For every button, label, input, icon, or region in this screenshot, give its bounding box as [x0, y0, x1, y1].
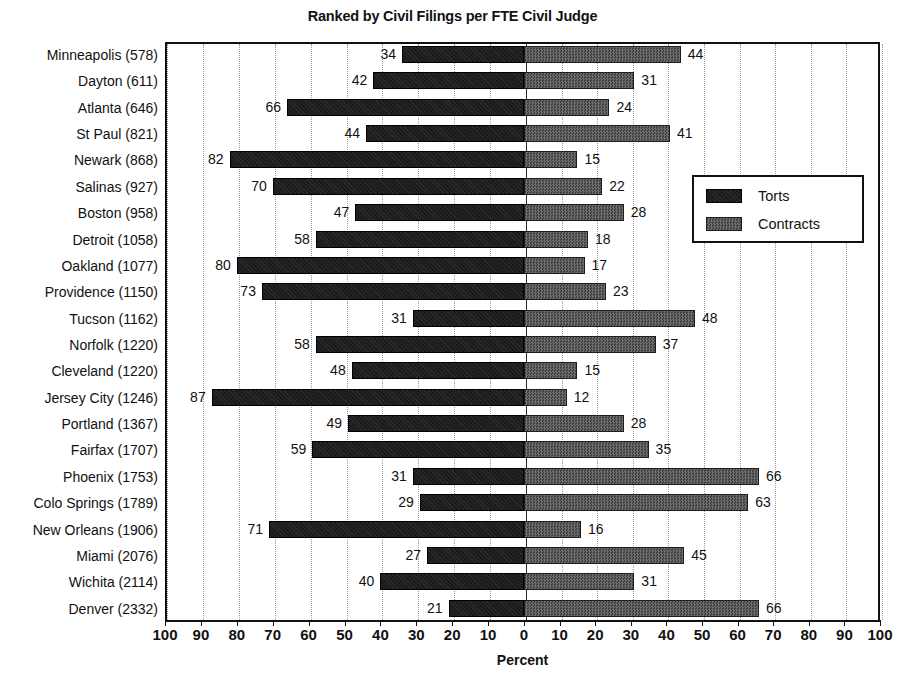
- x-axis-tick-mark: [809, 620, 810, 626]
- bar-row: 7116: [165, 517, 880, 543]
- bar-contracts: [524, 336, 656, 353]
- bar-contracts: [524, 204, 624, 221]
- bar-torts: [316, 231, 524, 248]
- y-axis-label: Tucson (1162): [0, 306, 158, 332]
- bar-value-contracts: 15: [584, 360, 600, 380]
- bars-layer: 3444423166244441821570224728581880177323…: [165, 42, 880, 622]
- bar-torts: [237, 257, 524, 274]
- bar-row: 3148: [165, 306, 880, 332]
- bar-value-contracts: 37: [663, 334, 679, 354]
- bar-value-contracts: 35: [656, 439, 672, 459]
- x-axis-tick-mark: [880, 620, 881, 626]
- bar-contracts: [524, 494, 748, 511]
- x-axis-tick-mark: [631, 620, 632, 626]
- y-axis-label: Oakland (1077): [0, 253, 158, 279]
- x-axis-tick-label: 70: [264, 626, 281, 643]
- bar-row: 3166: [165, 464, 880, 490]
- bar-value-torts: 59: [291, 439, 307, 459]
- bar-contracts: [524, 46, 681, 63]
- bar-value-contracts: 12: [574, 387, 590, 407]
- torts-swatch-icon: [706, 189, 742, 203]
- bar-torts: [230, 151, 524, 168]
- bar-torts: [380, 573, 524, 590]
- bar-contracts: [524, 441, 649, 458]
- y-axis-label: Jersey City (1246): [0, 385, 158, 411]
- x-axis-ticks: 1009080706050403020100102030405060708090…: [0, 626, 905, 650]
- bar-value-contracts: 24: [616, 97, 632, 117]
- y-axis-category-labels: Minneapolis (578)Dayton (611)Atlanta (64…: [0, 42, 158, 622]
- bar-contracts: [524, 151, 577, 168]
- bar-torts: [413, 468, 524, 485]
- x-axis-tick-label: 30: [408, 626, 425, 643]
- y-axis-label: Boston (958): [0, 200, 158, 226]
- x-axis-tick-mark: [844, 620, 845, 626]
- bar-contracts: [524, 415, 624, 432]
- bar-value-torts: 31: [391, 308, 407, 328]
- bar-torts: [212, 389, 524, 406]
- legend-item-torts: Torts: [706, 187, 856, 205]
- bar-row: 4441: [165, 121, 880, 147]
- bar-row: 5935: [165, 437, 880, 463]
- bar-row: 5837: [165, 332, 880, 358]
- bar-torts: [352, 362, 524, 379]
- bar-row: 4231: [165, 68, 880, 94]
- bar-contracts: [524, 600, 759, 617]
- bar-value-torts: 49: [327, 413, 343, 433]
- x-axis-tick-label: 50: [336, 626, 353, 643]
- x-axis-tick-label: 100: [867, 626, 892, 643]
- bar-contracts: [524, 521, 581, 538]
- y-axis-label: Providence (1150): [0, 279, 158, 305]
- bar-torts: [413, 310, 524, 327]
- bar-value-torts: 21: [427, 598, 443, 618]
- bar-value-torts: 44: [344, 123, 360, 143]
- bar-value-contracts: 31: [641, 571, 657, 591]
- bar-row: 2963: [165, 490, 880, 516]
- bar-contracts: [524, 573, 634, 590]
- bar-value-torts: 66: [265, 97, 281, 117]
- y-axis-label: Minneapolis (578): [0, 42, 158, 68]
- bar-torts: [287, 99, 524, 116]
- y-axis-label: St Paul (821): [0, 121, 158, 147]
- x-axis-tick-mark: [345, 620, 346, 626]
- bar-value-torts: 27: [406, 545, 422, 565]
- bar-value-torts: 87: [190, 387, 206, 407]
- x-axis-tick-mark: [524, 620, 525, 626]
- x-axis-tick-mark: [595, 620, 596, 626]
- x-axis-tick-label: 60: [729, 626, 746, 643]
- bar-torts: [402, 46, 524, 63]
- bar-row: 8017: [165, 253, 880, 279]
- x-axis-tick-label: 70: [765, 626, 782, 643]
- bar-value-torts: 58: [294, 229, 310, 249]
- bar-value-torts: 48: [330, 360, 346, 380]
- bar-value-torts: 71: [248, 519, 264, 539]
- x-axis-tick-label: 20: [444, 626, 461, 643]
- bar-value-torts: 31: [391, 466, 407, 486]
- bar-torts: [449, 600, 524, 617]
- bar-contracts: [524, 310, 695, 327]
- bar-torts: [373, 72, 524, 89]
- x-axis-tick-mark: [165, 620, 166, 626]
- chart-container: Ranked by Civil Filings per FTE Civil Ju…: [0, 0, 905, 684]
- bar-value-torts: 47: [334, 202, 350, 222]
- legend-label-torts: Torts: [758, 187, 789, 205]
- bar-row: 8712: [165, 385, 880, 411]
- y-axis-label: Denver (2332): [0, 596, 158, 622]
- bar-row: 2745: [165, 543, 880, 569]
- x-axis-tick-mark: [702, 620, 703, 626]
- contracts-swatch-icon: [706, 217, 742, 231]
- bar-value-contracts: 18: [595, 229, 611, 249]
- bar-contracts: [524, 125, 670, 142]
- bar-torts: [269, 521, 524, 538]
- bar-value-contracts: 16: [588, 519, 604, 539]
- x-axis-tick-label: 0: [520, 626, 528, 643]
- bar-value-torts: 70: [251, 176, 267, 196]
- x-axis-tick-mark: [237, 620, 238, 626]
- y-axis-label: Phoenix (1753): [0, 464, 158, 490]
- bar-row: 8215: [165, 147, 880, 173]
- bar-contracts: [524, 99, 609, 116]
- x-axis-tick-mark: [488, 620, 489, 626]
- bar-value-contracts: 66: [766, 598, 782, 618]
- bar-row: 3444: [165, 42, 880, 68]
- bar-value-torts: 58: [294, 334, 310, 354]
- x-axis-tick-label: 90: [193, 626, 210, 643]
